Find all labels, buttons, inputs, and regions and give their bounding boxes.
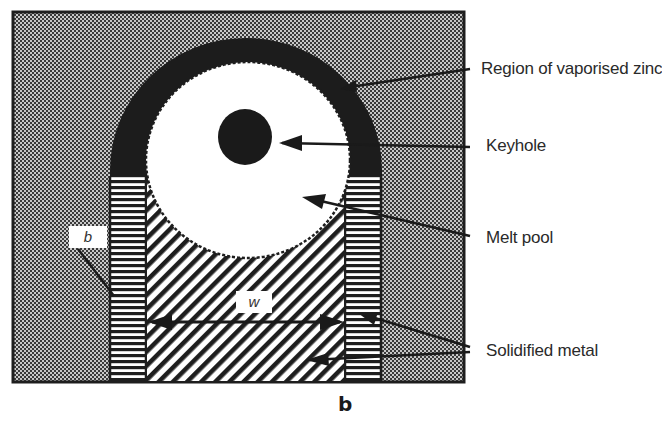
callout-melt-pool: Melt pool [486, 228, 553, 248]
figure-caption: b [338, 392, 352, 416]
b-dimension-label: b [69, 226, 107, 248]
w-dimension-label: w [236, 291, 272, 313]
callout-vaporised-zinc: Region of vaporised zinc [481, 59, 662, 79]
callout-keyhole: Keyhole [486, 136, 546, 156]
callout-solidified-metal: Solidified metal [486, 341, 598, 361]
left-solidified-strip [110, 176, 146, 383]
keyhole [218, 109, 272, 165]
